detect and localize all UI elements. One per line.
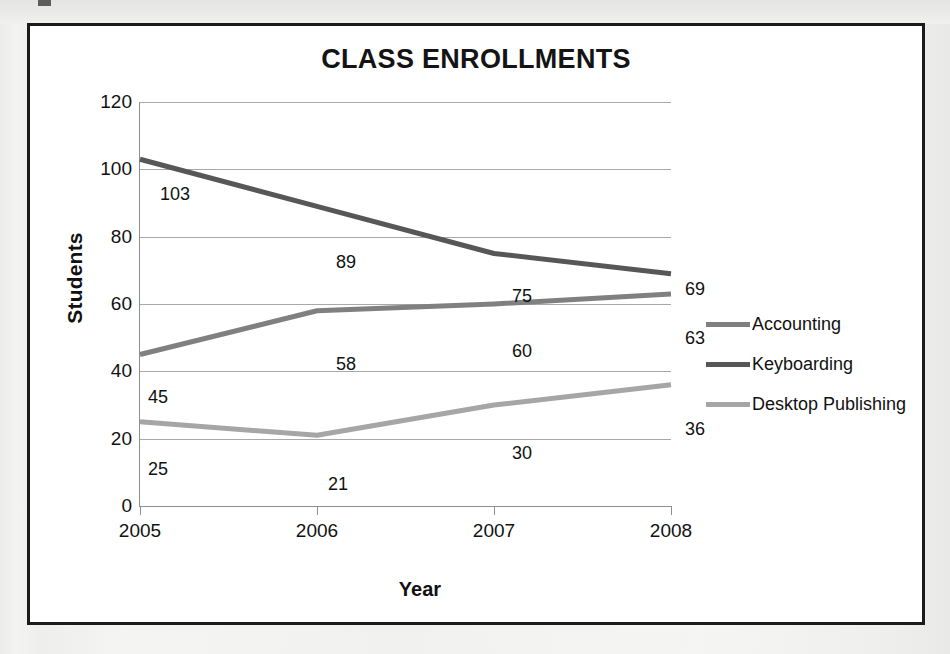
y-tick-label: 0 xyxy=(86,495,132,517)
series-line-desktop-publishing xyxy=(140,385,671,436)
series-lines xyxy=(140,102,671,507)
x-tick-mark xyxy=(317,506,318,515)
y-tick-label: 120 xyxy=(86,91,132,113)
y-tick-label: 100 xyxy=(86,158,132,180)
data-label: 45 xyxy=(148,387,168,408)
legend-item-desktop-publishing[interactable]: Desktop Publishing xyxy=(706,384,921,424)
series-line-keyboarding xyxy=(140,159,671,273)
x-tick-mark xyxy=(494,506,495,515)
legend-swatch-icon xyxy=(706,402,750,407)
data-label: 103 xyxy=(160,184,190,205)
legend-item-keyboarding[interactable]: Keyboarding xyxy=(706,344,921,384)
data-label: 89 xyxy=(336,252,356,273)
chart-slide-frame: CLASS ENROLLMENTS Students 0204060801001… xyxy=(27,23,925,625)
y-tick-label: 40 xyxy=(86,360,132,382)
data-label: 60 xyxy=(512,341,532,362)
y-tick-label: 20 xyxy=(86,428,132,450)
x-tick-label: 2005 xyxy=(95,520,185,542)
x-axis-title: Year xyxy=(140,578,700,601)
legend-swatch-icon xyxy=(706,322,750,327)
legend-swatch-icon xyxy=(706,362,750,367)
x-tick-label: 2006 xyxy=(272,520,362,542)
data-label: 75 xyxy=(512,286,532,307)
chart-title: CLASS ENROLLMENTS xyxy=(30,44,922,75)
y-tick-label: 60 xyxy=(86,293,132,315)
scan-edge-shadow xyxy=(0,0,950,24)
legend-item-accounting[interactable]: Accounting xyxy=(706,304,921,344)
legend-label: Keyboarding xyxy=(752,354,853,375)
data-label: 58 xyxy=(336,354,356,375)
x-tick-mark xyxy=(140,506,141,515)
y-tick-label: 80 xyxy=(86,226,132,248)
plot-area: 1038975694558606325213036 20052006200720… xyxy=(140,102,671,506)
legend-label: Accounting xyxy=(752,314,841,335)
x-tick-label: 2007 xyxy=(449,520,539,542)
legend-label: Desktop Publishing xyxy=(752,394,906,415)
data-label: 21 xyxy=(328,474,348,495)
series-line-accounting xyxy=(140,294,671,355)
data-label: 36 xyxy=(685,419,705,440)
data-label: 69 xyxy=(685,279,705,300)
data-label: 30 xyxy=(512,443,532,464)
data-label: 25 xyxy=(148,459,168,480)
data-label: 63 xyxy=(685,328,705,349)
scan-corner-mark xyxy=(38,0,51,6)
chart-legend: AccountingKeyboardingDesktop Publishing xyxy=(706,304,921,424)
y-axis-tick-labels: 020406080100120 xyxy=(80,102,132,506)
x-tick-mark xyxy=(671,506,672,515)
x-tick-label: 2008 xyxy=(626,520,716,542)
